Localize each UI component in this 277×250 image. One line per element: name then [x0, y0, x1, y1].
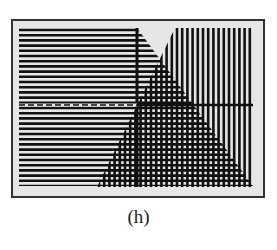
figure-caption: (h) [0, 206, 277, 228]
calculator-graph-figure: (h) [0, 0, 277, 250]
inequality-graph [0, 0, 277, 205]
